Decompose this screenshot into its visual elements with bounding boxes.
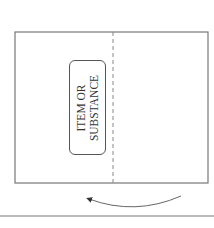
item-label-box: ITEM OR SUBSTANCE — [69, 60, 106, 155]
outer-frame — [15, 32, 208, 183]
item-label-text: ITEM OR SUBSTANCE — [75, 74, 101, 140]
diagram-canvas — [0, 0, 214, 228]
label-line-2: SUBSTANCE — [88, 74, 101, 140]
label-line-1: ITEM OR — [75, 74, 88, 140]
rotate-arrow — [89, 196, 181, 207]
